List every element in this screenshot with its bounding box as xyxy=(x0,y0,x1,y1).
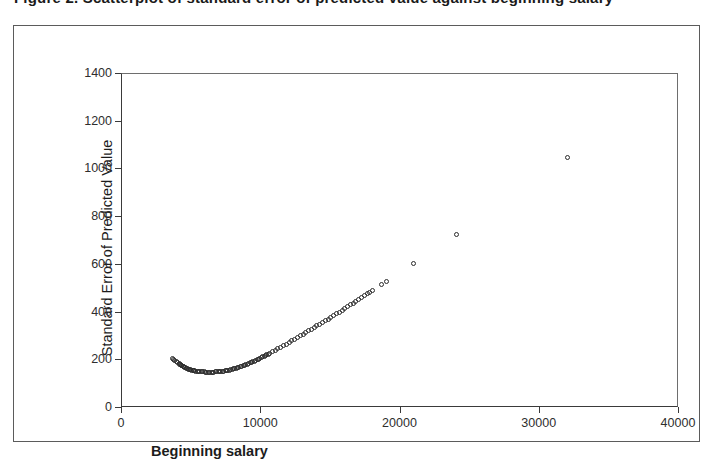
x-axis-tick xyxy=(400,407,401,413)
x-axis-tick-label: 20000 xyxy=(382,416,417,430)
x-axis-tick xyxy=(539,407,540,413)
y-axis-tick-label: 600 xyxy=(76,257,112,271)
scatter-point xyxy=(384,279,389,284)
y-axis-tick-label: 0 xyxy=(76,400,112,414)
x-axis-tick xyxy=(678,407,679,413)
plot-area xyxy=(121,73,678,407)
x-axis-tick-label: 0 xyxy=(118,416,125,430)
y-axis-tick-label: 800 xyxy=(76,209,112,223)
y-axis-tick-label: 400 xyxy=(76,305,112,319)
figure-frame: Standard Error of Predicted Value Beginn… xyxy=(13,25,700,442)
x-axis-tick xyxy=(121,407,122,413)
y-axis-tick-label: 1400 xyxy=(76,66,112,80)
scatter-point xyxy=(379,282,384,287)
x-axis-title: Beginning salary xyxy=(151,443,268,459)
x-axis-tick-label: 30000 xyxy=(521,416,556,430)
y-axis-tick-label: 1200 xyxy=(76,114,112,128)
scatter-point xyxy=(565,155,570,160)
x-axis-tick-label: 40000 xyxy=(661,416,696,430)
scatter-point xyxy=(411,261,416,266)
figure-title: Figure 2. Scatterplot of standard error … xyxy=(0,0,727,7)
scatter-point xyxy=(370,288,375,293)
y-axis-tick-label: 200 xyxy=(76,352,112,366)
x-axis-tick-label: 10000 xyxy=(243,416,278,430)
y-axis-tick-label: 1000 xyxy=(76,161,112,175)
x-axis-tick xyxy=(260,407,261,413)
scatter-point xyxy=(454,232,459,237)
